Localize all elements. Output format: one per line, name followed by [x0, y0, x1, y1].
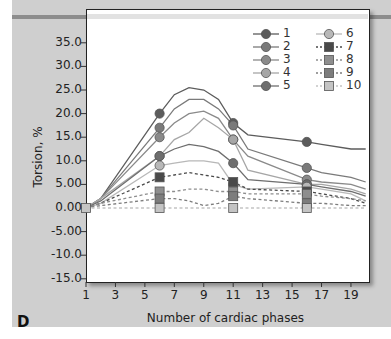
x-tick-label: 15 — [282, 288, 302, 302]
legend-circle-icon — [324, 29, 333, 38]
data-point-marker — [302, 163, 311, 172]
series-line-4 — [86, 118, 366, 208]
legend-square-icon — [325, 82, 334, 91]
panel-label: D — [17, 313, 29, 331]
data-point-marker — [229, 192, 238, 201]
y-tick-label: -15.0 — [51, 271, 82, 285]
data-point-marker — [82, 204, 91, 213]
x-tick-label: 3 — [105, 288, 125, 302]
x-tick-label: 9 — [194, 288, 214, 302]
data-point-marker — [155, 204, 164, 213]
y-tick-label: 10.0 — [55, 153, 82, 167]
x-tick-label: 7 — [164, 288, 184, 302]
data-point-marker — [155, 109, 164, 118]
series-line-5 — [86, 144, 366, 208]
y-tick-label: -5.00 — [51, 224, 82, 238]
legend-square-icon — [325, 56, 334, 65]
data-point-marker — [229, 135, 238, 144]
y-axis-label: Torsion, % — [31, 117, 45, 197]
legend-circle-icon — [261, 42, 270, 51]
data-point-marker — [155, 133, 164, 142]
legend-circle-icon — [261, 55, 270, 64]
x-axis-label: Number of cardiac phases — [0, 311, 391, 325]
data-point-marker — [155, 194, 164, 203]
data-point-marker — [229, 178, 238, 187]
data-point-marker — [155, 161, 164, 170]
y-tick-label: 5.00 — [55, 176, 82, 190]
data-point-marker — [302, 204, 311, 213]
data-point-marker — [229, 121, 238, 130]
data-point-marker — [302, 137, 311, 146]
y-tick-label: 30.0 — [55, 58, 82, 72]
data-point-marker — [155, 173, 164, 182]
x-tick-label: 5 — [135, 288, 155, 302]
y-tick-label: 25.0 — [55, 82, 82, 96]
legend-circle-icon — [261, 29, 270, 38]
data-point-marker — [229, 204, 238, 213]
legend-circle-icon — [261, 81, 270, 90]
data-point-marker — [229, 159, 238, 168]
data-point-marker — [155, 123, 164, 132]
legend-circle-icon — [261, 68, 270, 77]
y-tick-label: 20.0 — [55, 106, 82, 120]
legend-square-icon — [325, 69, 334, 78]
data-point-marker — [155, 151, 164, 160]
y-tick-label: 15.0 — [55, 129, 82, 143]
data-point-marker — [302, 189, 311, 198]
y-tick-label: 0.00 — [55, 200, 82, 214]
legend-square-icon — [325, 43, 334, 52]
x-tick-label: 1 — [76, 288, 96, 302]
y-tick-label: 35.0 — [55, 35, 82, 49]
x-tick-label: 13 — [253, 288, 273, 302]
legend-entry-5: 5 — [283, 79, 291, 92]
x-tick-label: 19 — [341, 288, 361, 302]
series-line-7 — [86, 173, 366, 208]
series-line-9 — [86, 196, 366, 208]
x-tick-label: 17 — [312, 288, 332, 302]
y-tick-label: -10.0 — [51, 247, 82, 261]
legend-entry-10: 10 — [346, 79, 361, 92]
x-tick-label: 11 — [223, 288, 243, 302]
